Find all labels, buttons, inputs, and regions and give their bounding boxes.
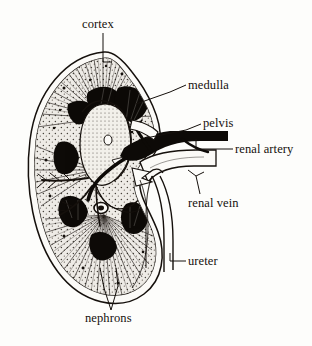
kidney-illustration (0, 0, 312, 346)
label-ureter: ureter (188, 255, 218, 268)
leader-renal-vein (188, 170, 204, 194)
label-renal-artery: renal artery (235, 143, 293, 156)
lower-calyx-lumen (98, 206, 104, 211)
label-cortex: cortex (82, 18, 114, 31)
minor-calyx (104, 135, 112, 145)
label-pelvis: pelvis (203, 117, 233, 130)
label-nephrons: nephrons (85, 312, 132, 325)
label-medulla: medulla (188, 79, 229, 92)
label-renal-vein: renal vein (188, 197, 239, 210)
kidney-diagram-figure: cortex medulla pelvis renal artery renal… (0, 0, 312, 346)
